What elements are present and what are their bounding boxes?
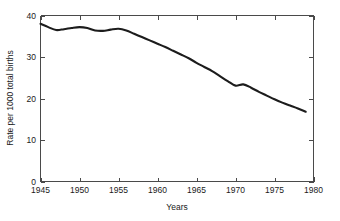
y-tick-label-40: 40 — [27, 11, 37, 21]
y-tick-label-30: 30 — [27, 52, 37, 62]
data-series-line — [41, 24, 306, 112]
y-tick-label-10: 10 — [27, 135, 37, 145]
x-tick-labels: 19451950195519601965197019751980 — [31, 185, 323, 195]
y-tick-label-20: 20 — [27, 94, 37, 104]
x-tick-label-1955: 1955 — [109, 185, 128, 195]
y-tick-marks — [41, 17, 45, 183]
y-tick-marks-right — [309, 17, 314, 183]
x-tick-label-1965: 1965 — [187, 185, 206, 195]
x-tick-label-1945: 1945 — [31, 185, 50, 195]
x-tick-marks-top — [42, 16, 315, 20]
y-tick-label-0: 0 — [31, 177, 36, 187]
x-tick-label-1970: 1970 — [226, 185, 245, 195]
x-tick-label-1980: 1980 — [304, 185, 323, 195]
y-axis-title: Rate per 1000 total births — [5, 50, 15, 145]
x-tick-marks — [42, 177, 315, 182]
x-tick-label-1950: 1950 — [70, 185, 89, 195]
x-axis-title: Years — [166, 202, 187, 212]
x-tick-label-1975: 1975 — [265, 185, 284, 195]
x-tick-label-1960: 1960 — [148, 185, 167, 195]
y-tick-labels: 010203040 — [27, 11, 37, 187]
chart-figure: 19451950195519601965197019751980 0102030… — [0, 0, 340, 221]
birth-rate-line-chart: 19451950195519601965197019751980 0102030… — [0, 0, 340, 221]
